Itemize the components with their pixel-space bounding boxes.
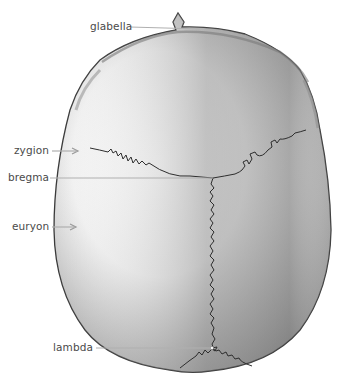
skull-illustration bbox=[0, 0, 353, 379]
skull-diagram: glabella zygion bregma euryon lambda bbox=[0, 0, 353, 379]
label-euryon: euryon bbox=[12, 220, 49, 232]
label-bregma: bregma bbox=[8, 171, 49, 183]
label-zygion: zygion bbox=[14, 144, 49, 156]
label-lambda: lambda bbox=[53, 341, 93, 353]
label-glabella: glabella bbox=[90, 20, 132, 32]
